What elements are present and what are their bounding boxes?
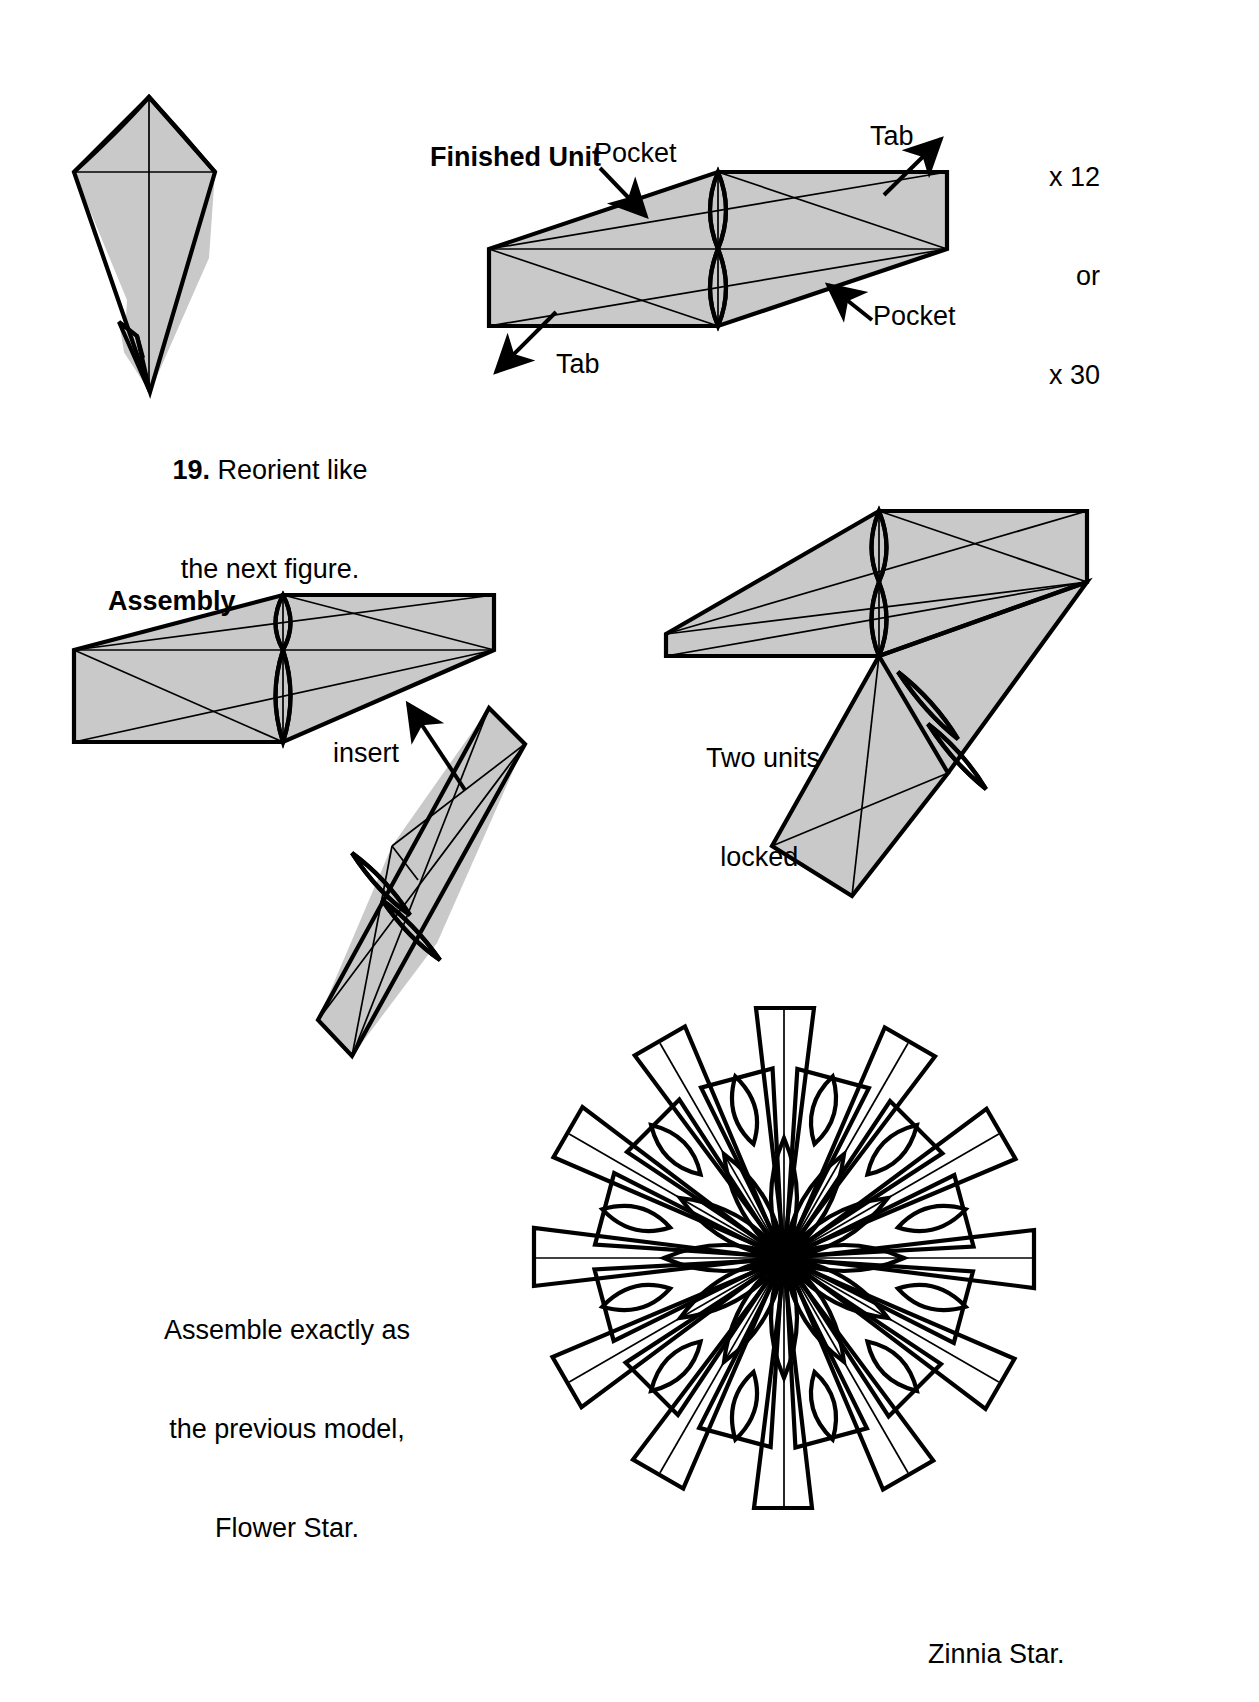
final-model-note: Assemble exactly as the previous model, … [142, 1248, 432, 1610]
quantity-note: x 12 or x 30 [960, 95, 1100, 457]
two-units-locked-caption: Two units locked. [648, 676, 878, 940]
step19-caption-text-1: Reorient like [217, 455, 367, 485]
locked-caption-line-2: locked. [648, 841, 878, 874]
label-pocket-bottom: Pocket [873, 300, 956, 333]
assembly-heading: Assembly [78, 552, 236, 651]
label-tab-bottom: Tab [556, 348, 600, 381]
locked-caption-line-1: Two units [648, 742, 878, 775]
label-insert: insert [333, 737, 399, 770]
finished-unit-heading: Finished Unit [400, 108, 601, 207]
step19-number: 19. [172, 455, 210, 485]
final-note-line-1: Assemble exactly as [142, 1314, 432, 1347]
finished-unit-heading-text: Finished Unit [430, 142, 601, 172]
final-note-line-3: Flower Star. [142, 1512, 432, 1545]
assembly-heading-text: Assembly [108, 586, 236, 616]
quantity-line-2: or [960, 260, 1100, 293]
label-pocket-top: Pocket [594, 137, 677, 170]
figure-zinnia-star [534, 1008, 1034, 1508]
final-note-line-2: the previous model, [142, 1413, 432, 1446]
step19-caption-line-1: 19. Reorient like [150, 454, 390, 487]
quantity-line-3: x 30 [960, 359, 1100, 392]
origami-instruction-page: .f { fill: #c9c9c9; } .fl { fill: #d4d4d… [0, 0, 1259, 1702]
label-tab-top: Tab [870, 120, 914, 153]
figure-step19 [74, 97, 215, 392]
final-model-caption: Zinnia Star. [928, 1638, 1065, 1671]
quantity-line-1: x 12 [960, 161, 1100, 194]
